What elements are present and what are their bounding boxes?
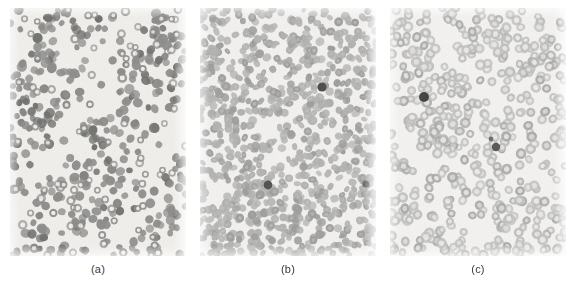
panel-c-image <box>390 8 566 256</box>
panel-a-image <box>10 8 186 256</box>
panel-c-cells <box>390 8 566 256</box>
panel-b-image <box>200 8 376 256</box>
figure-container: (a) (b) (c) <box>0 0 578 284</box>
panel-b-caption: (b) <box>268 262 308 276</box>
panel-b-cells <box>200 8 376 256</box>
panel-a-caption: (a) <box>78 262 118 276</box>
panel-c-caption: (c) <box>458 262 498 276</box>
panel-a-cells <box>10 8 186 256</box>
